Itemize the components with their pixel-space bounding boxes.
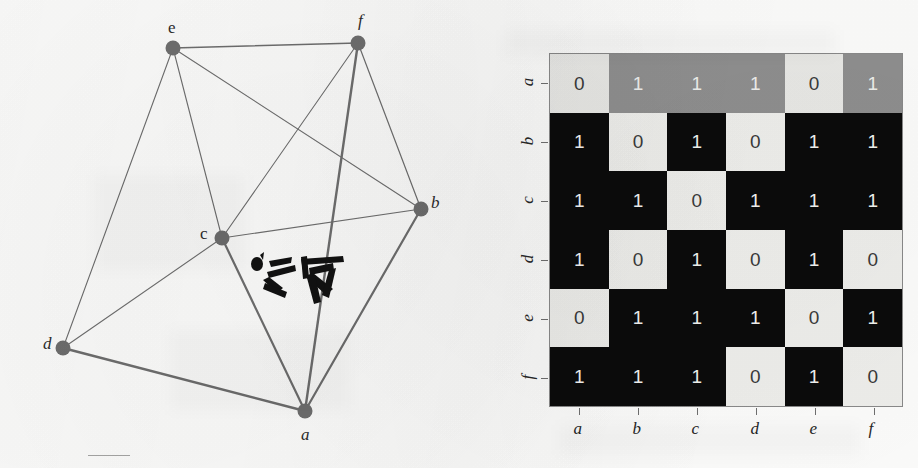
matrix-grid: 011101101011110111101010011101111010: [549, 53, 903, 407]
matrix-column-tick-b: [638, 408, 639, 415]
graph-edge-ad: [63, 348, 305, 411]
matrix-cell-ab: 1: [609, 54, 668, 113]
graph-node-label-e: e: [168, 18, 176, 38]
matrix-cell-bf: 1: [843, 113, 902, 172]
matrix-column-tick-c: [697, 408, 698, 415]
matrix-cell-af: 1: [843, 54, 902, 113]
matrix-column-tick-a: [579, 408, 580, 415]
graph-node-label-d: d: [43, 334, 52, 354]
matrix-cell-ea: 0: [550, 289, 609, 348]
graph-edge-bc: [222, 209, 421, 238]
matrix-cell-cd: 1: [726, 171, 785, 230]
matrix-row-label-d: d: [518, 248, 538, 270]
graph-node-label-b: b: [431, 193, 440, 213]
graph-node-f: [351, 36, 366, 51]
matrix-column-label-c: c: [692, 419, 700, 439]
matrix-cell-be: 1: [785, 113, 844, 172]
matrix-cell-ed: 1: [726, 289, 785, 348]
matrix-column-label-d: d: [751, 419, 760, 439]
graph-node-d: [56, 341, 71, 356]
graph-node-label-a: a: [301, 425, 310, 445]
graph-edge-de: [63, 48, 173, 348]
matrix-column-label-f: f: [869, 419, 874, 439]
matrix-cell-fd: 0: [726, 347, 785, 406]
graph-edge-cf: [222, 43, 358, 238]
matrix-cell-ad: 1: [726, 54, 785, 113]
graph-edge-ab: [305, 209, 421, 411]
matrix-row-tick-d: [541, 260, 548, 261]
matrix-cell-ef: 1: [843, 289, 902, 348]
matrix-cell-ec: 1: [667, 289, 726, 348]
matrix-row-tick-f: [541, 378, 548, 379]
matrix-cell-fc: 1: [667, 347, 726, 406]
matrix-cell-eb: 1: [609, 289, 668, 348]
graph-node-e: [166, 41, 181, 56]
matrix-cell-ae: 0: [785, 54, 844, 113]
matrix-row-tick-e: [541, 319, 548, 320]
matrix-cell-bc: 1: [667, 113, 726, 172]
matrix-row-label-b: b: [518, 130, 538, 152]
matrix-column-tick-e: [815, 408, 816, 415]
matrix-cell-aa: 0: [550, 54, 609, 113]
matrix-cell-dd: 0: [726, 230, 785, 289]
matrix-cell-fe: 1: [785, 347, 844, 406]
graph-edge-af: [305, 43, 358, 411]
graph-edges-layer: [63, 43, 421, 411]
matrix-cell-df: 0: [843, 230, 902, 289]
matrix-cell-ce: 1: [785, 171, 844, 230]
graph-edge-bf: [358, 43, 421, 209]
matrix-cell-ee: 0: [785, 289, 844, 348]
matrix-row-tick-b: [541, 142, 548, 143]
graph-node-b: [414, 202, 429, 217]
adjacency-matrix: 011101101011110111101010011101111010 abc…: [470, 0, 918, 468]
matrix-cell-fb: 1: [609, 347, 668, 406]
matrix-cell-db: 0: [609, 230, 668, 289]
graph-node-label-f: f: [358, 11, 363, 31]
graph-node-a: [298, 404, 313, 419]
matrix-row-label-c: c: [518, 189, 538, 211]
matrix-cell-bb: 0: [609, 113, 668, 172]
matrix-column-tick-d: [756, 408, 757, 415]
graph-node-label-c: c: [200, 224, 208, 244]
matrix-cell-ba: 1: [550, 113, 609, 172]
matrix-column-label-a: a: [574, 419, 583, 439]
matrix-cell-ff: 0: [843, 347, 902, 406]
matrix-cell-bd: 0: [726, 113, 785, 172]
matrix-row-label-a: a: [518, 71, 538, 93]
figure-page: abcdef 011101101011110111101010011101111…: [0, 0, 918, 468]
matrix-cell-cf: 1: [843, 171, 902, 230]
matrix-cell-cb: 1: [609, 171, 668, 230]
graph-node-c: [215, 231, 230, 246]
matrix-row-label-e: e: [518, 307, 538, 329]
matrix-column-label-e: e: [810, 419, 818, 439]
matrix-cell-da: 1: [550, 230, 609, 289]
matrix-cell-fa: 1: [550, 347, 609, 406]
matrix-column-tick-f: [874, 408, 875, 415]
graph-edge-ce: [173, 48, 222, 238]
matrix-cell-ac: 1: [667, 54, 726, 113]
matrix-cell-ca: 1: [550, 171, 609, 230]
graph-svg: [0, 0, 470, 468]
matrix-cell-dc: 1: [667, 230, 726, 289]
graph-edge-ef: [173, 43, 358, 48]
matrix-cell-cc: 0: [667, 171, 726, 230]
graph-diagram: abcdef: [0, 0, 470, 468]
matrix-cell-de: 1: [785, 230, 844, 289]
matrix-row-tick-c: [541, 201, 548, 202]
caption-remnant: [88, 455, 130, 456]
graph-edge-be: [173, 48, 421, 209]
matrix-row-tick-a: [541, 83, 548, 84]
graph-edge-cd: [63, 238, 222, 348]
matrix-column-label-b: b: [633, 419, 642, 439]
matrix-row-label-f: f: [518, 366, 538, 388]
handwritten-scribble-annotation: [247, 248, 351, 310]
